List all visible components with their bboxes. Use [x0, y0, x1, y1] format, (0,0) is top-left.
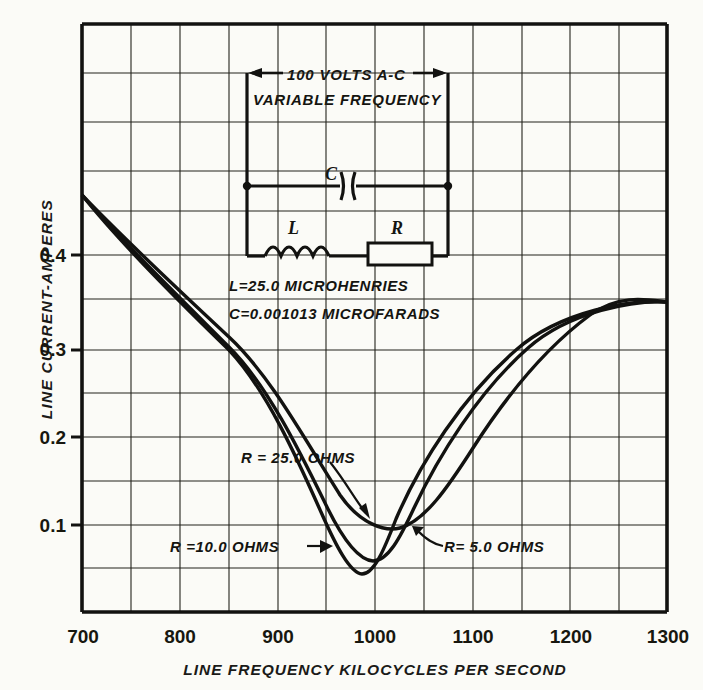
plot-svg	[0, 0, 703, 690]
node-dot-left	[243, 182, 251, 190]
circuit-diagram	[243, 68, 452, 265]
capacitor-symbol	[341, 172, 355, 200]
annotation-leader-r5	[412, 526, 443, 546]
arrow-head-left	[248, 68, 262, 78]
resistor-symbol	[368, 243, 432, 265]
node-dot-right	[444, 182, 452, 190]
arrow-head-right	[433, 68, 447, 78]
figure-container: LINE CURRENT-AMPERES LINE FREQUENCY KILO…	[0, 0, 703, 690]
annotation-leader-r10	[307, 540, 333, 553]
